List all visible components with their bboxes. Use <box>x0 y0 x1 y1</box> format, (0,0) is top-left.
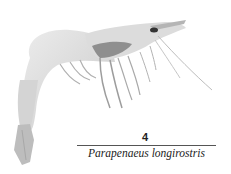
caption-divider <box>77 145 216 146</box>
figure-number: 4 <box>135 131 155 143</box>
figure-caption: Parapenaeus longirostris <box>77 147 216 159</box>
